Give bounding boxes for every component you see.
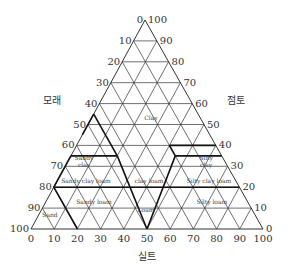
sand-tick-label: 30 bbox=[96, 77, 109, 88]
grid-lines bbox=[31, 20, 263, 229]
sand-tick-label: 70 bbox=[50, 160, 63, 171]
triangle-svg: 0100010901020802030703040604050505060406… bbox=[0, 0, 288, 272]
sand-tick-label: 100 bbox=[10, 223, 29, 234]
clay-tick-label: 50 bbox=[207, 119, 220, 130]
sand-tick-label: 10 bbox=[119, 35, 132, 46]
boundary-loam-right bbox=[147, 156, 175, 229]
clay-tick-label: 40 bbox=[219, 139, 232, 150]
sand-axis-title: 모래 bbox=[43, 95, 61, 106]
boundary-silty-clay bbox=[169, 145, 175, 155]
clay-tick-label: 90 bbox=[160, 35, 173, 46]
clay-tick-label: 20 bbox=[242, 181, 255, 192]
region-label-sandy-clay-2: clay bbox=[78, 161, 91, 169]
soil-texture-triangle-diagram: 0100010901020802030703040604050505060406… bbox=[0, 0, 288, 272]
silt-tick-label: 0 bbox=[28, 233, 34, 244]
silt-tick-label: 40 bbox=[117, 233, 130, 244]
region-label-sand: Sand bbox=[42, 211, 58, 218]
grid-line-parallel-left bbox=[240, 208, 251, 229]
silt-tick-label: 50 bbox=[141, 233, 154, 244]
sand-tick-label: 50 bbox=[73, 119, 86, 130]
silt-axis-title: 실트 bbox=[138, 251, 156, 262]
boundary-loam-left bbox=[117, 156, 147, 229]
sand-tick-label: 40 bbox=[85, 98, 98, 109]
region-label-silty-clay-2: clay bbox=[200, 161, 213, 169]
silt-tick-label: 20 bbox=[71, 233, 84, 244]
silt-tick-label: 70 bbox=[187, 233, 200, 244]
sand-tick-label: 80 bbox=[39, 181, 52, 192]
region-label-sandy-loam: Sandy loam bbox=[76, 198, 112, 206]
sand-tick-label: 20 bbox=[107, 56, 120, 67]
region-label-silty-loam: Silty loam bbox=[197, 198, 228, 206]
silt-tick-label: 90 bbox=[233, 233, 246, 244]
clay-tick-label: 80 bbox=[172, 56, 185, 67]
region-label-silty-clay-loam: Silty clay loam bbox=[187, 177, 232, 185]
region-label-loam: Loam bbox=[138, 206, 155, 213]
sand-tick-label: 90 bbox=[28, 202, 41, 213]
clay-tick-label: 10 bbox=[254, 202, 267, 213]
silt-tick-label: 80 bbox=[210, 233, 223, 244]
silt-tick-label: 60 bbox=[164, 233, 177, 244]
sand-tick-label: 60 bbox=[62, 139, 75, 150]
silt-tick-label: 100 bbox=[253, 233, 272, 244]
clay-axis-title: 점토 bbox=[227, 95, 245, 106]
region-label-clay: Clay bbox=[144, 114, 158, 122]
clay-tick-label: 60 bbox=[195, 98, 208, 109]
clay-tick-label: 30 bbox=[231, 160, 244, 171]
region-label-clay-loam: clay loam bbox=[135, 177, 164, 185]
region-label-sandy-clay-loam: Sandy clay loam bbox=[61, 177, 111, 185]
clay-tick-label: 70 bbox=[183, 77, 196, 88]
silt-tick-label: 10 bbox=[48, 233, 61, 244]
clay-tick-label: 100 bbox=[148, 14, 167, 25]
sand-tick-label: 0 bbox=[137, 14, 143, 25]
silt-tick-label: 30 bbox=[94, 233, 107, 244]
